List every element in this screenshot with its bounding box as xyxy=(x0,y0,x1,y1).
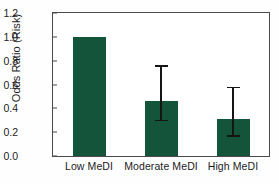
y-tick-label: 1.2 xyxy=(3,7,18,19)
y-tick-label: 0.2 xyxy=(3,126,18,138)
error-bar xyxy=(145,65,178,121)
x-tick-label: Low MeDI xyxy=(65,160,113,172)
y-axis-ticks: 0.00.20.40.60.81.01.2 xyxy=(0,0,52,184)
y-tick-label: 0.0 xyxy=(3,150,18,162)
error-bar-cap-bottom xyxy=(155,120,168,122)
error-bar-cap-bottom xyxy=(227,135,240,137)
error-bar-cap-top xyxy=(227,87,240,89)
odds-ratio-bar-chart: Odds Ratio (Risk) 0.00.20.40.60.81.01.2 … xyxy=(0,0,279,184)
y-tick-label: 0.8 xyxy=(3,55,18,67)
bar xyxy=(73,37,106,156)
x-tick-label: Moderate MeDI xyxy=(124,160,198,172)
error-bar-stem xyxy=(160,65,162,121)
bars-layer xyxy=(53,13,269,156)
error-bar xyxy=(217,87,250,137)
y-tick-label: 1.0 xyxy=(3,31,18,43)
x-tick-label: High MeDI xyxy=(208,160,259,172)
error-bar-cap-top xyxy=(155,65,168,67)
error-bar-stem xyxy=(232,87,234,137)
y-tick-label: 0.4 xyxy=(3,102,18,114)
y-tick-label: 0.6 xyxy=(3,79,18,91)
